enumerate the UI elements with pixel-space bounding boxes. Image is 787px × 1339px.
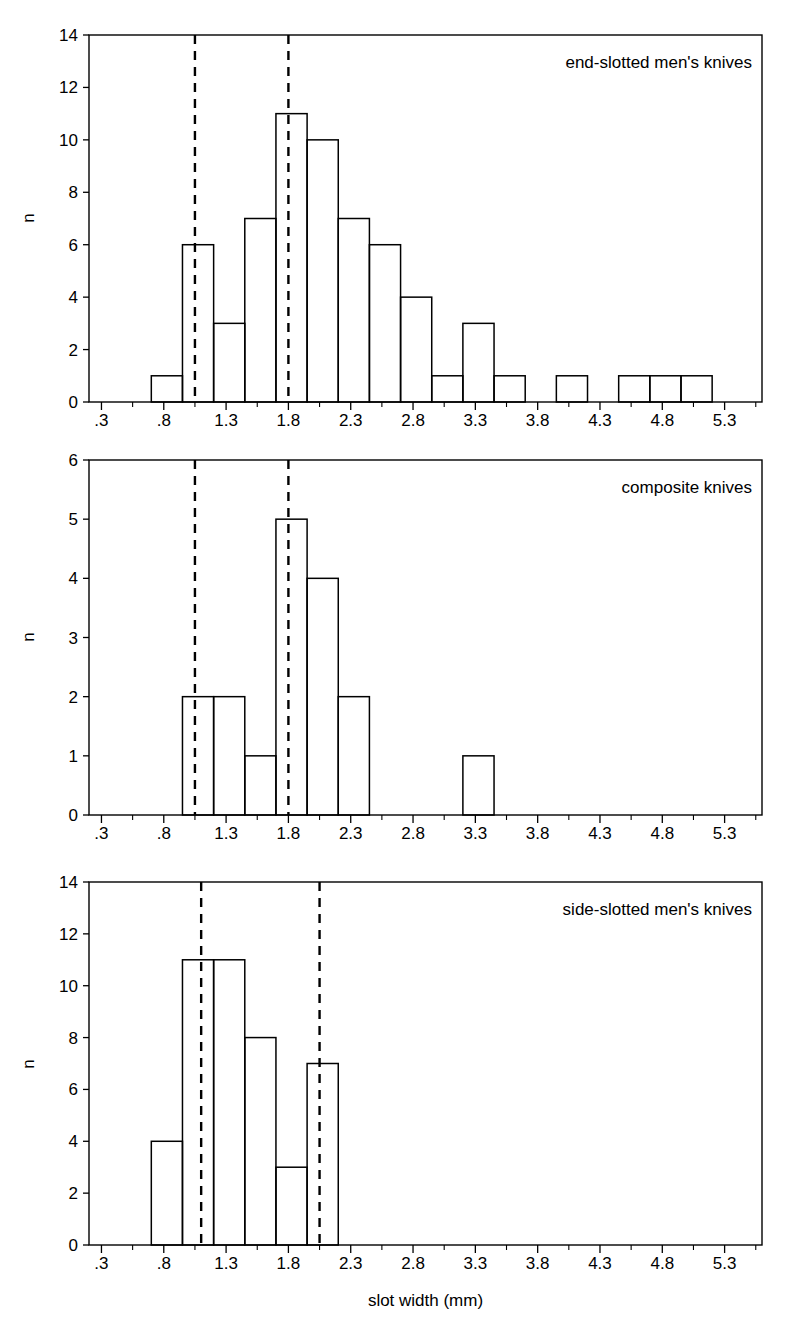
y-axis-tick-label: 10 [59, 131, 78, 150]
histogram-bar [463, 756, 494, 815]
panel-annotation-label: end-slotted men's knives [565, 53, 752, 72]
x-axis-tick-label: 2.3 [339, 824, 363, 843]
y-axis-tick-label: 8 [69, 183, 78, 202]
x-axis-tick-label: 4.8 [650, 824, 674, 843]
x-axis-tick-label: 3.3 [464, 411, 488, 430]
x-axis-tick-label: 2.8 [401, 1254, 425, 1273]
x-axis-tick-label: 3.8 [526, 411, 550, 430]
histogram-bar [182, 960, 213, 1245]
y-axis-tick-label: 5 [69, 510, 78, 529]
y-axis-tick-label: 0 [69, 393, 78, 412]
x-axis-tick-label: 3.3 [464, 824, 488, 843]
histogram-bar [151, 1141, 182, 1245]
x-axis-tick-label: 5.3 [713, 824, 737, 843]
y-axis-tick-label: 1 [69, 747, 78, 766]
x-axis-tick-label: .8 [157, 411, 171, 430]
panel-1-plot: 0123456n.3.81.31.82.32.83.33.84.34.85.3c… [0, 445, 787, 860]
y-axis-tick-label: 4 [69, 1132, 78, 1151]
plot-frame [89, 35, 762, 402]
x-axis-tick-label: 4.3 [588, 1254, 612, 1273]
histogram-bar [432, 376, 463, 402]
panel-annotation-label: side-slotted men's knives [563, 900, 752, 919]
histogram-bar [151, 376, 182, 402]
histogram-bar [619, 376, 650, 402]
y-axis-tick-label: 4 [69, 569, 78, 588]
y-axis-title: n [19, 213, 38, 222]
x-axis-title: slot width (mm) [368, 1291, 483, 1310]
histogram-bar [401, 297, 432, 402]
x-axis-tick-label: 3.8 [526, 824, 550, 843]
x-axis-tick-label: 1.3 [214, 824, 238, 843]
panel-side-slotted-mens-knives: 02468101214n.3.81.31.82.32.83.33.84.34.8… [0, 860, 787, 1339]
histogram-bar [463, 323, 494, 402]
y-axis-tick-label: 12 [59, 78, 78, 97]
histogram-bar [369, 245, 400, 402]
histogram-bar [214, 960, 245, 1245]
x-axis-tick-label: .8 [157, 824, 171, 843]
x-axis-tick-label: 3.8 [526, 1254, 550, 1273]
histogram-bar [307, 578, 338, 815]
plot-frame [89, 882, 762, 1245]
x-axis-tick-label: 2.8 [401, 824, 425, 843]
histogram-bar [214, 697, 245, 815]
panel-composite-knives: 0123456n.3.81.31.82.32.83.33.84.34.85.3c… [0, 445, 787, 860]
x-axis-tick-label: 2.3 [339, 411, 363, 430]
x-axis-tick-label: .3 [94, 824, 108, 843]
x-axis-tick-label: 2.8 [401, 411, 425, 430]
histogram-bar [276, 519, 307, 815]
panel-annotation-label: composite knives [622, 478, 752, 497]
x-axis-tick-label: 5.3 [713, 1254, 737, 1273]
y-axis-tick-label: 3 [69, 629, 78, 648]
histogram-bar [276, 1167, 307, 1245]
histogram-bar [214, 323, 245, 402]
y-axis-tick-label: 6 [69, 1080, 78, 1099]
x-axis-tick-label: 4.3 [588, 411, 612, 430]
histogram-bar [338, 697, 369, 815]
histogram-bar [681, 376, 712, 402]
panel-0-plot: 02468101214n.3.81.31.82.32.83.33.84.34.8… [0, 0, 787, 445]
x-axis-tick-label: 3.3 [464, 1254, 488, 1273]
plot-frame [89, 460, 762, 815]
x-axis-tick-label: 1.8 [277, 411, 301, 430]
y-axis-tick-label: 2 [69, 341, 78, 360]
panel-2-plot: 02468101214n.3.81.31.82.32.83.33.84.34.8… [0, 860, 787, 1339]
x-axis-tick-label: 1.8 [277, 1254, 301, 1273]
y-axis-tick-label: 2 [69, 688, 78, 707]
y-axis-tick-label: 0 [69, 806, 78, 825]
y-axis-tick-label: 6 [69, 236, 78, 255]
x-axis-tick-label: 4.3 [588, 824, 612, 843]
histogram-bar [494, 376, 525, 402]
y-axis-tick-label: 12 [59, 925, 78, 944]
x-axis-tick-label: 2.3 [339, 1254, 363, 1273]
histogram-bar [307, 140, 338, 402]
histogram-bar [182, 245, 213, 402]
histogram-bar [276, 114, 307, 402]
x-axis-tick-label: .3 [94, 1254, 108, 1273]
y-axis-tick-label: 4 [69, 288, 78, 307]
x-axis-tick-label: 4.8 [650, 1254, 674, 1273]
x-axis-tick-label: 5.3 [713, 411, 737, 430]
y-axis-tick-label: 14 [59, 873, 78, 892]
x-axis-tick-label: 1.3 [214, 411, 238, 430]
y-axis-tick-label: 14 [59, 26, 78, 45]
histogram-bar [338, 219, 369, 403]
y-axis-tick-label: 0 [69, 1236, 78, 1255]
x-axis-tick-label: 4.8 [650, 411, 674, 430]
histogram-bar [245, 1038, 276, 1245]
histogram-figure: 02468101214n.3.81.31.82.32.83.33.84.34.8… [0, 0, 787, 1339]
y-axis-tick-label: 8 [69, 1029, 78, 1048]
histogram-bar [245, 756, 276, 815]
panel-end-slotted-mens-knives: 02468101214n.3.81.31.82.32.83.33.84.34.8… [0, 0, 787, 445]
histogram-bar [556, 376, 587, 402]
y-axis-tick-label: 2 [69, 1184, 78, 1203]
x-axis-tick-label: 1.8 [277, 824, 301, 843]
x-axis-tick-label: .3 [94, 411, 108, 430]
y-axis-title: n [19, 1059, 38, 1068]
histogram-bar [245, 219, 276, 403]
y-axis-tick-label: 6 [69, 451, 78, 470]
histogram-bar [307, 1064, 338, 1246]
y-axis-tick-label: 10 [59, 977, 78, 996]
histogram-bar [650, 376, 681, 402]
x-axis-tick-label: .8 [157, 1254, 171, 1273]
histogram-bar [182, 697, 213, 815]
